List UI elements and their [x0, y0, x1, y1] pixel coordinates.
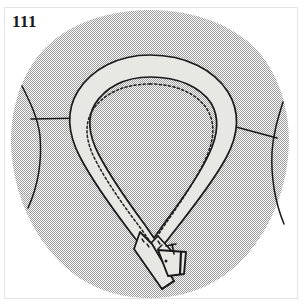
- figure-illustration: 111 Neckline with tie band collar crossi…: [0, 0, 303, 307]
- figure-drawing-canvas: [0, 0, 303, 307]
- figure-number-label: 111: [12, 13, 37, 30]
